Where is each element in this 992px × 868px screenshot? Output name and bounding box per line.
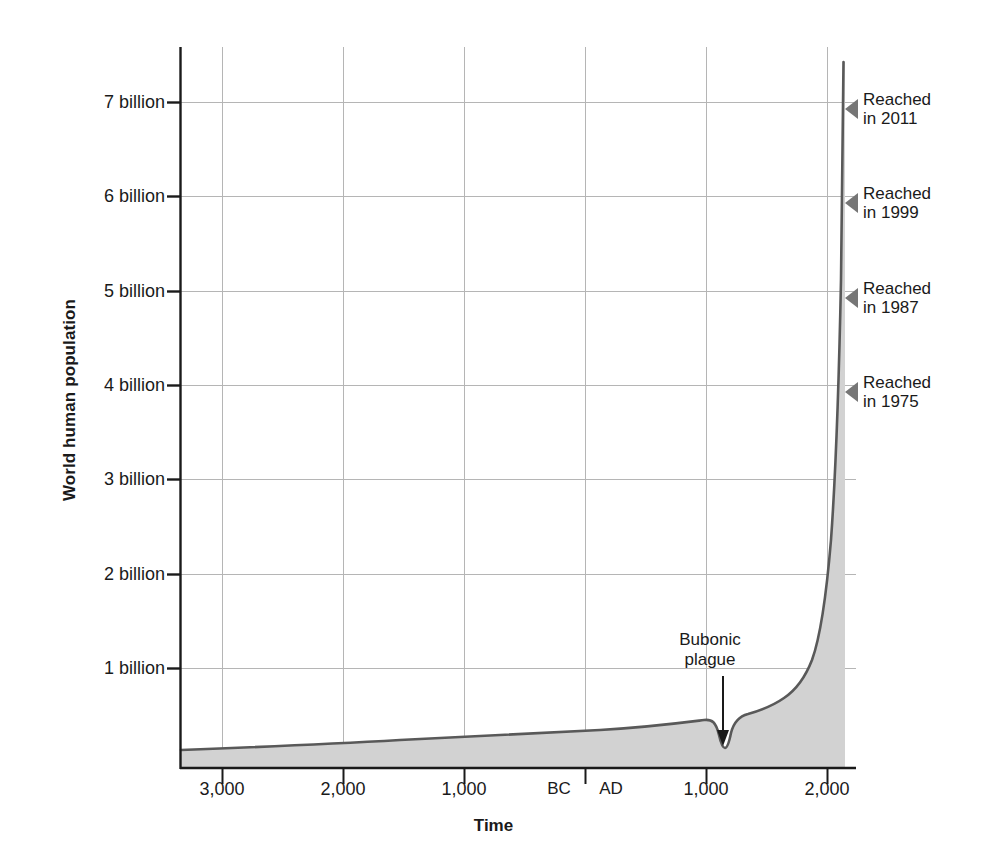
x-axis-title-text: Time (474, 816, 513, 836)
annotation-reached-1987-text: Reached in 1987 (863, 279, 931, 317)
annotation-reached-1999: Reached in 1999 (845, 184, 931, 222)
annotation-line2: in 1975 (863, 392, 931, 411)
x-tick-label-1000ad: 1,000 (683, 779, 728, 800)
population-chart-figure: World human population 7 billion 6 billi… (0, 0, 992, 868)
annotation-reached-2011: Reached in 2011 (845, 90, 931, 128)
x-tick-label-1000bc: 1,000 (441, 779, 486, 800)
annotation-line1: Reached (863, 373, 931, 392)
annotation-line1: Reached (863, 279, 931, 298)
left-triangle-icon (845, 193, 858, 213)
x-tick-label-3000bc: 3,000 (199, 779, 244, 800)
x-tick-label-2000bc: 2,000 (320, 779, 365, 800)
annotation-reached-1975-text: Reached in 1975 (863, 373, 931, 411)
callout-bubonic-plague: Bubonic plague (645, 630, 775, 669)
x-axis-title: Time (0, 816, 992, 836)
annotation-reached-2011-text: Reached in 2011 (863, 90, 931, 128)
annotation-reached-1987: Reached in 1987 (845, 279, 931, 317)
x-tick-label-2000ad: 2,000 (804, 779, 849, 800)
annotation-line2: in 1999 (863, 203, 931, 222)
callout-line2: plague (645, 650, 775, 670)
left-triangle-icon (845, 99, 858, 119)
annotation-line1: Reached (863, 184, 931, 203)
annotation-line2: in 2011 (863, 109, 931, 128)
annotation-line1: Reached (863, 90, 931, 109)
x-axis-tick-labels: 3,000 2,000 1,000 BC AD 1,000 2,000 (0, 0, 992, 868)
callout-line1: Bubonic (679, 630, 740, 649)
x-tick-label-bc: BC (547, 779, 571, 799)
left-triangle-icon (845, 382, 858, 402)
x-tick-label-ad: AD (599, 779, 623, 799)
annotation-line2: in 1987 (863, 298, 931, 317)
annotation-reached-1999-text: Reached in 1999 (863, 184, 931, 222)
annotation-reached-1975: Reached in 1975 (845, 373, 931, 411)
left-triangle-icon (845, 288, 858, 308)
